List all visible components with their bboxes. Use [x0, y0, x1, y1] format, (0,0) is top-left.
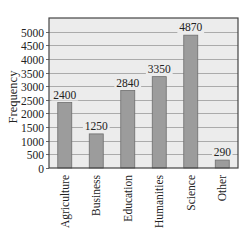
y-tick-label: 3000	[21, 81, 44, 93]
data-label: 3350	[148, 63, 171, 75]
data-label: 2840	[116, 77, 139, 89]
y-tick-label: 1500	[21, 122, 44, 134]
y-tick-label: 0	[38, 163, 44, 175]
y-tick-label: 1000	[21, 136, 44, 148]
x-axis-ticks: AgricultureBusinessEducationHumanitiesSc…	[59, 174, 229, 228]
bar-agriculture	[58, 103, 72, 168]
x-tick-label: Business	[90, 174, 102, 215]
y-tick-label: 3500	[21, 68, 44, 80]
y-tick-label: 500	[27, 149, 45, 161]
data-label: 290	[214, 146, 232, 158]
y-tick-label: 2000	[21, 108, 44, 120]
y-tick-label: 4000	[21, 54, 44, 66]
data-label: 2400	[53, 89, 76, 101]
bar-chart: 24001250284033504870290 0500100015002000…	[0, 0, 246, 239]
x-tick-label: Agriculture	[59, 175, 72, 228]
x-tick-label: Education	[122, 175, 134, 222]
bar-education	[121, 91, 135, 168]
bar-other	[215, 160, 229, 168]
x-tick-label: Humanities	[153, 174, 165, 228]
y-tick-label: 4500	[21, 40, 44, 52]
bar-science	[184, 35, 198, 168]
y-tick-label: 5000	[21, 27, 44, 39]
x-tick-label: Science	[185, 175, 197, 211]
bar-business	[89, 134, 103, 168]
data-label: 4870	[179, 21, 202, 33]
y-axis-ticks: 0500100015002000250030003500400045005000	[21, 27, 49, 175]
data-label: 1250	[85, 120, 108, 132]
y-axis-label: Frequency	[6, 70, 20, 124]
y-tick-label: 2500	[21, 95, 44, 107]
x-tick-label: Other	[216, 175, 228, 201]
bar-humanities	[152, 77, 166, 168]
